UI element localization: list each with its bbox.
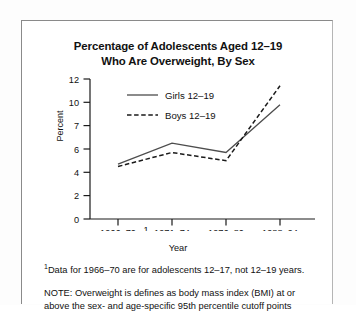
chart-title: Percentage of Adolescents Aged 12–19 Who…: [22, 39, 334, 69]
x-tick-label-footnote-marker: 1: [144, 225, 149, 232]
y-tick-label: 0: [74, 215, 79, 225]
footnote: 1Data for 1966–70 are for adolescents 12…: [44, 261, 319, 276]
y-tick-label: 7: [74, 121, 79, 131]
line-chart-svg: 12 10 7 6 4 2 0: [22, 71, 334, 231]
figure-frame: Percentage of Adolescents Aged 12–19 Who…: [21, 20, 333, 304]
legend-label-girls: Girls 12–19: [165, 90, 214, 101]
x-axis-label: Year: [22, 243, 334, 253]
chart-plot-area: Percent 12 10: [22, 71, 334, 231]
legend-label-boys: Boys 12–19: [165, 110, 216, 121]
x-tick-label: 1976–80: [208, 228, 244, 231]
chart-title-line-2: Who Are Overweight, By Sex: [22, 54, 334, 69]
x-axis-ticks: [118, 219, 280, 226]
figure-notes: 1Data for 1966–70 are for adolescents 12…: [44, 261, 319, 312]
y-tick-label: 4: [74, 168, 79, 178]
y-tick-label: 10: [69, 98, 79, 108]
y-axis-tick-labels: 12 10 7 6 4 2 0: [69, 75, 79, 225]
note-line-2: above the sex- and age-specific 95th per…: [44, 300, 319, 312]
x-axis-tick-labels: 1966–70 1 1971–74 1976–80 1988–94: [100, 225, 298, 232]
y-tick-label: 12: [69, 75, 79, 85]
note-line-1: NOTE: Overweight is defines as body mass…: [44, 287, 319, 300]
chart-title-line-1: Percentage of Adolescents Aged 12–19: [22, 39, 334, 54]
chart-legend: Girls 12–19 Boys 12–19: [127, 90, 216, 121]
footnote-text: Data for 1966–70 are for adolescents 12–…: [48, 265, 304, 275]
x-tick-label: 1988–94: [262, 228, 298, 231]
y-axis-ticks: [84, 79, 91, 219]
y-tick-label: 6: [74, 145, 79, 155]
y-axis-label: Percent: [55, 96, 65, 156]
x-tick-label: 1971–74: [154, 228, 190, 231]
y-tick-label: 2: [74, 191, 79, 201]
x-tick-label: 1966–70: [100, 228, 136, 231]
note-block: NOTE: Overweight is defines as body mass…: [44, 287, 319, 312]
